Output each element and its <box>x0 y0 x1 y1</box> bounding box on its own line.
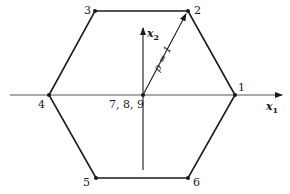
hexagon-diagram: 1 2 3 4 5 6 7, 8, 9 x1 x2 ρ = 1 <box>0 0 290 194</box>
vertex-4-dot <box>47 93 51 97</box>
vertex-3-dot <box>93 9 97 13</box>
vertex-4-label: 4 <box>38 98 45 111</box>
x2-axis-label: x2 <box>146 27 159 42</box>
center-dot <box>141 93 145 97</box>
vertex-5-dot <box>94 176 98 180</box>
vertex-2-label: 2 <box>194 4 201 17</box>
x1-axis-label: x1 <box>265 100 278 115</box>
center-label: 7, 8, 9 <box>109 98 144 111</box>
vertex-3-label: 3 <box>84 4 91 17</box>
vertex-6-dot <box>186 176 190 180</box>
vertex-2-dot <box>186 9 190 13</box>
vertex-1-dot <box>233 93 237 97</box>
vertex-5-label: 5 <box>83 176 90 189</box>
vertex-1-label: 1 <box>238 81 245 94</box>
radius-label: ρ = 1 <box>151 44 174 74</box>
vertex-6-label: 6 <box>193 176 200 189</box>
